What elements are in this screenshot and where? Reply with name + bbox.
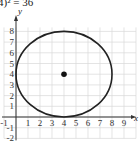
circle-graph: xy-1123456789-2-112345678 [0, 0, 139, 147]
x-axis-label: x [133, 113, 138, 123]
y-tick-label: 6 [10, 48, 15, 58]
x-tick-label: 3 [50, 118, 55, 128]
y-tick-label: 4 [10, 69, 15, 79]
y-tick-label: 3 [10, 80, 15, 90]
x-tick-label: 1 [26, 118, 31, 128]
x-tick-label: 4 [62, 118, 67, 128]
y-axis-label: y [17, 6, 22, 16]
x-tick-label: 9 [122, 118, 127, 128]
y-tick-label: 7 [10, 37, 15, 47]
x-tick-label: 8 [110, 118, 115, 128]
y-tick-label: 8 [10, 26, 15, 36]
x-tick-label: 6 [86, 118, 91, 128]
y-tick-label: 2 [10, 91, 15, 101]
y-tick-label: -2 [7, 133, 15, 143]
x-tick-label: 7 [98, 118, 103, 128]
y-tick-label: 1 [10, 101, 15, 111]
y-tick-label: 5 [10, 59, 15, 69]
x-tick-label: 2 [38, 118, 43, 128]
x-tick-label: 5 [74, 118, 79, 128]
center-point [61, 71, 67, 77]
y-tick-label: -1 [7, 123, 15, 133]
